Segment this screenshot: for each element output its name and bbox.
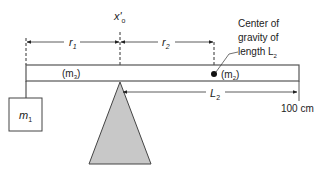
lever-diagram: r1 r2 x'o (m3) (m2) Center of gravity of… [0,0,322,170]
r1-label: r1 [69,36,77,50]
cg-callout-line3: length L2 [238,46,278,59]
fulcrum-triangle [89,82,151,164]
m2-label: (m2) [221,69,239,81]
cg-callout-line2: gravity of [238,32,279,43]
end-label-100cm: 100 cm [281,103,314,114]
m3-label: (m3) [62,68,80,80]
pivot-label: x'o [113,10,126,24]
r2-label: r2 [162,36,170,50]
cg-callout-line1: Center of [238,18,279,29]
L2-label: L2 [210,87,220,101]
